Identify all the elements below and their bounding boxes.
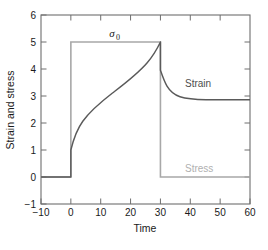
y-tick-label: 4: [30, 64, 36, 75]
y-tick-label: 6: [30, 10, 36, 21]
strain-series-line: [41, 42, 250, 177]
chart-canvas: −10 0 10 20 30 40 50 60 −1 0 1 2 3 4 5 6…: [0, 0, 268, 250]
strain-series-label: Strain: [185, 78, 211, 89]
y-axis-ticks: [41, 15, 250, 204]
x-tick-label: 10: [95, 207, 107, 218]
x-tick-label: 0: [68, 207, 74, 218]
creep-recovery-chart: −10 0 10 20 30 40 50 60 −1 0 1 2 3 4 5 6…: [0, 0, 268, 250]
x-tick-label: 20: [125, 207, 137, 218]
y-tick-label: 1: [30, 145, 36, 156]
stress-series-line: [41, 42, 250, 177]
stress-series-label: Stress: [185, 163, 213, 174]
x-tick-label: 30: [155, 207, 167, 218]
y-tick-label: 2: [30, 118, 36, 129]
x-axis-title: Time: [134, 222, 157, 234]
x-tick-labels: −10 0 10 20 30 40 50 60: [33, 207, 256, 218]
sigma-symbol: σ: [109, 27, 115, 39]
x-tick-label: 40: [185, 207, 197, 218]
y-tick-label: −1: [25, 199, 37, 210]
x-axis-ticks: [41, 15, 250, 204]
sigma-zero-annotation: σ 0: [109, 27, 120, 42]
y-tick-label: 5: [30, 37, 36, 48]
y-tick-labels: −1 0 1 2 3 4 5 6: [25, 10, 37, 210]
y-axis-title: Strain and stress: [4, 71, 16, 150]
sigma-subscript: 0: [116, 33, 120, 42]
x-tick-label: 60: [244, 207, 256, 218]
plot-frame: [41, 15, 250, 204]
y-tick-label: 3: [30, 91, 36, 102]
x-tick-label: 50: [215, 207, 227, 218]
y-tick-label: 0: [30, 172, 36, 183]
